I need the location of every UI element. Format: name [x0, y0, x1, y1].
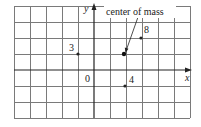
center-of-mass-label: center of mass: [106, 6, 164, 17]
mass-label-8: 8: [144, 24, 149, 35]
mass-point-3: [76, 52, 79, 55]
grid: [14, 6, 190, 118]
mass-point-8: [139, 36, 142, 39]
x-axis-label: x: [184, 72, 190, 83]
pointer-arrowhead-icon: [125, 48, 129, 54]
coordinate-grid-diagram: y x 0 3 8 4 center of mass: [0, 0, 201, 127]
origin-label: 0: [85, 73, 90, 84]
mass-point-4: [123, 84, 126, 87]
mass-label-4: 4: [129, 74, 134, 85]
x-axis: [14, 68, 192, 73]
y-axis-label: y: [83, 3, 89, 14]
y-axis: [92, 3, 97, 118]
mass-label-3: 3: [69, 42, 74, 53]
